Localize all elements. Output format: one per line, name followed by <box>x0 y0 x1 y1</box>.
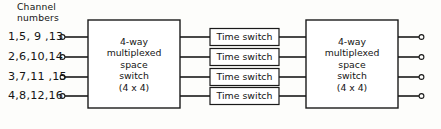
right-space-switch-line-5: (4 x 4) <box>306 82 398 93</box>
output-terminal-1 <box>419 35 424 40</box>
channel-numbers-header: Channel numbers <box>17 2 59 23</box>
right-space-switch-line-2: multiplexed <box>306 47 398 58</box>
output-terminal-4 <box>419 94 424 99</box>
time-switch-label-4: Time switch <box>210 90 279 101</box>
time-switch-label-1: Time switch <box>210 31 279 42</box>
diagram-canvas: Channel numbers 1,5, 9 ,13 2,6,10,14 3,7… <box>0 0 441 129</box>
left-space-switch-line-2: multiplexed <box>88 47 180 58</box>
time-switch-label-2: Time switch <box>210 51 279 62</box>
channel-numbers-header-line1: Channel <box>17 2 59 13</box>
channel-label-2: 2,6,10,14 <box>8 51 60 63</box>
channel-label-1: 1,5, 9 ,13 <box>8 31 60 43</box>
right-space-switch-line-4: switch <box>306 70 398 81</box>
output-terminal-3 <box>419 75 424 80</box>
right-space-switch-label: 4-way multiplexed space switch (4 x 4) <box>306 36 398 93</box>
mid-right-lines-group <box>279 37 306 96</box>
mid-left-lines-group <box>180 37 210 96</box>
input-lines-group <box>65 37 88 96</box>
output-terminals-group <box>419 35 424 99</box>
channel-label-3: 3,7,11 ,15 <box>8 71 60 83</box>
left-space-switch-line-4: switch <box>88 70 180 81</box>
channel-label-4: 4,8,12,16 <box>8 90 60 102</box>
left-space-switch-label: 4-way multiplexed space switch (4 x 4) <box>88 36 180 93</box>
channel-numbers-header-line2: numbers <box>17 13 59 24</box>
output-lines-group <box>398 37 419 96</box>
time-switch-label-3: Time switch <box>210 71 279 82</box>
left-space-switch-line-3: space <box>88 59 180 70</box>
left-space-switch-line-5: (4 x 4) <box>88 82 180 93</box>
left-space-switch-line-1: 4-way <box>88 36 180 47</box>
right-space-switch-line-1: 4-way <box>306 36 398 47</box>
output-terminal-2 <box>419 55 424 60</box>
right-space-switch-line-3: space <box>306 59 398 70</box>
